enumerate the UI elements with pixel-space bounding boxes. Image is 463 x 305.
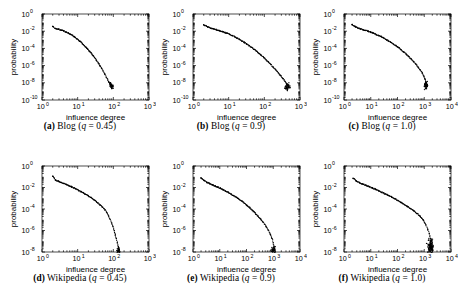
svg-text:-4: -4 — [332, 43, 337, 49]
x-tick-label: 102 — [108, 253, 120, 263]
chart-panel-d: 10010110210310010-210-410-610-8influence… — [4, 152, 156, 300]
svg-text:2: 2 — [117, 253, 120, 259]
x-tick-label: 102 — [392, 101, 404, 111]
x-tick-label: 103 — [419, 253, 431, 263]
y-tick-label: 100 — [22, 8, 33, 18]
svg-text:3: 3 — [428, 101, 431, 107]
svg-text:10: 10 — [173, 226, 181, 235]
svg-text:10: 10 — [339, 254, 347, 263]
panel-caption-c: (c) Blog (q = 1.0) — [306, 121, 458, 131]
plot-area-f: 10010110210310410010-210-410-610-8influe… — [306, 152, 458, 274]
svg-text:10: 10 — [173, 183, 181, 192]
svg-text:4: 4 — [455, 253, 458, 259]
x-tick-label: 104 — [446, 101, 458, 111]
svg-text:3: 3 — [428, 253, 431, 259]
svg-text:10: 10 — [22, 183, 30, 192]
y-tick-label: 10-2 — [22, 25, 35, 35]
svg-text:-2: -2 — [332, 25, 337, 31]
svg-text:10: 10 — [324, 226, 332, 235]
svg-text:1: 1 — [82, 101, 85, 107]
svg-text:-10: -10 — [30, 94, 38, 100]
log-log-scatter-a: 10010110210310010-210-410-610-810-10infl… — [4, 0, 156, 122]
svg-text:2: 2 — [268, 101, 271, 107]
chart-panel-e: 10010110210310410010-210-410-610-8influe… — [155, 152, 307, 300]
axes-frame — [344, 14, 451, 100]
figure-panel-grid: 10010110210310010-210-410-610-810-10infl… — [0, 0, 463, 305]
svg-text:10: 10 — [173, 10, 181, 19]
caption-parameter-value: = 0.9) — [240, 121, 265, 131]
x-tick-label: 103 — [419, 101, 431, 111]
svg-text:10: 10 — [324, 10, 332, 19]
svg-text:10: 10 — [324, 205, 332, 214]
axes-frame — [42, 14, 149, 100]
y-tick-label: 10-2 — [324, 182, 337, 192]
caption-label: (d) — [33, 273, 45, 283]
plot-area-a: 10010110210310010-210-410-610-810-10infl… — [4, 0, 156, 122]
svg-text:3: 3 — [277, 253, 280, 259]
svg-text:10: 10 — [419, 102, 427, 111]
caption-label: (f) — [339, 273, 349, 283]
y-tick-label: 10-10 — [22, 94, 38, 104]
caption-parameter-value: = 1.0) — [390, 121, 415, 131]
caption-dataset-name: Blog ( — [209, 121, 236, 131]
svg-text:10: 10 — [268, 254, 276, 263]
x-tick-label: 103 — [268, 253, 280, 263]
svg-text:0: 0 — [332, 160, 335, 166]
svg-text:-6: -6 — [181, 60, 186, 66]
axes-frame — [344, 166, 451, 252]
y-tick-label: 10-6 — [22, 60, 35, 70]
svg-text:10: 10 — [173, 205, 181, 214]
plot-area-d: 10010110210310010-210-410-610-8influence… — [4, 152, 156, 274]
svg-text:-6: -6 — [332, 60, 337, 66]
y-tick-label: 10-4 — [324, 203, 337, 213]
svg-text:10: 10 — [22, 78, 30, 87]
y-tick-label: 10-8 — [22, 246, 35, 256]
y-tick-label: 10-4 — [173, 203, 186, 213]
svg-text:-8: -8 — [30, 77, 35, 83]
svg-text:10: 10 — [22, 248, 30, 257]
svg-text:10: 10 — [188, 102, 196, 111]
svg-text:10: 10 — [392, 254, 400, 263]
y-tick-label: 10-8 — [324, 246, 337, 256]
svg-text:10: 10 — [173, 61, 181, 70]
log-log-scatter-f: 10010110210310410010-210-410-610-8influe… — [306, 152, 458, 274]
x-tick-label: 104 — [446, 253, 458, 263]
svg-text:10: 10 — [324, 96, 332, 105]
y-tick-label: 10-2 — [22, 182, 35, 192]
plot-area-e: 10010110210310410010-210-410-610-8influe… — [155, 152, 307, 274]
log-log-scatter-e: 10010110210310410010-210-410-610-8influe… — [155, 152, 307, 274]
svg-text:10: 10 — [366, 102, 374, 111]
svg-text:1: 1 — [375, 101, 378, 107]
y-axis-label: probability — [311, 39, 320, 75]
svg-text:10: 10 — [241, 254, 249, 263]
svg-text:0: 0 — [46, 101, 49, 107]
svg-text:10: 10 — [392, 102, 400, 111]
axes-frame — [42, 166, 149, 252]
y-axis-label: probability — [9, 191, 18, 227]
svg-text:-2: -2 — [30, 25, 35, 31]
y-tick-label: 10-10 — [324, 94, 340, 104]
log-log-scatter-c: 10010110210310410010-210-410-610-810-10i… — [306, 0, 458, 122]
svg-text:10: 10 — [188, 254, 196, 263]
x-tick-label: 101 — [215, 253, 227, 263]
y-tick-label: 10-6 — [324, 225, 337, 235]
x-tick-label: 101 — [366, 253, 378, 263]
y-tick-label: 100 — [324, 8, 335, 18]
svg-text:0: 0 — [332, 8, 335, 14]
svg-text:10: 10 — [173, 248, 181, 257]
svg-text:10: 10 — [37, 102, 45, 111]
svg-text:-6: -6 — [332, 225, 337, 231]
caption-dataset-name: Blog ( — [55, 121, 82, 131]
chart-panel-f: 10010110210310410010-210-410-610-8influe… — [306, 152, 458, 300]
y-axis-label: probability — [160, 191, 169, 227]
y-tick-label: 10-2 — [173, 25, 186, 35]
x-tick-label: 101 — [72, 253, 84, 263]
svg-text:-4: -4 — [332, 203, 337, 209]
log-log-scatter-d: 10010110210310010-210-410-610-8influence… — [4, 152, 156, 274]
svg-text:10: 10 — [37, 254, 45, 263]
svg-text:1: 1 — [233, 101, 236, 107]
svg-text:10: 10 — [446, 102, 454, 111]
svg-text:-2: -2 — [332, 182, 337, 188]
svg-text:-8: -8 — [332, 246, 337, 252]
svg-text:-10: -10 — [181, 94, 189, 100]
